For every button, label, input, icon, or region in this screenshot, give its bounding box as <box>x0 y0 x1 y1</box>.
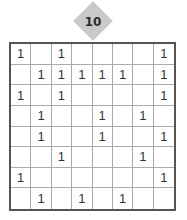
grid-cell-r3-c7[interactable] <box>133 85 153 106</box>
grid-cell-r6-c3[interactable]: 1 <box>52 147 72 168</box>
grid-cell-r5-c8[interactable]: 1 <box>154 127 174 148</box>
grid-cell-r7-c5[interactable] <box>93 168 113 189</box>
grid-cell-r4-c5[interactable]: 1 <box>93 106 113 127</box>
grid-cell-r5-c4[interactable] <box>72 127 92 148</box>
grid-cell-r4-c1[interactable] <box>11 106 31 127</box>
grid-cell-r4-c3[interactable] <box>52 106 72 127</box>
grid-cell-r1-c7[interactable] <box>133 44 153 65</box>
grid-cell-r7-c4[interactable] <box>72 168 92 189</box>
grid-cell-r5-c5[interactable]: 1 <box>93 127 113 148</box>
puzzle-grid: 1111111111111111111111111 <box>9 42 176 211</box>
grid-cell-r3-c1[interactable]: 1 <box>11 85 31 106</box>
grid-cell-r6-c7[interactable]: 1 <box>133 147 153 168</box>
grid-cell-r3-c5[interactable] <box>93 85 113 106</box>
grid-cell-r7-c2[interactable] <box>31 168 51 189</box>
grid-cell-r8-c5[interactable] <box>93 188 113 209</box>
grid-cell-r1-c8[interactable]: 1 <box>154 44 174 65</box>
grid-cell-r1-c3[interactable]: 1 <box>52 44 72 65</box>
grid-cell-r8-c7[interactable] <box>133 188 153 209</box>
grid-cell-r3-c6[interactable] <box>113 85 133 106</box>
grid-cell-r4-c2[interactable]: 1 <box>31 106 51 127</box>
grid-cell-r6-c6[interactable] <box>113 147 133 168</box>
grid-cell-r6-c1[interactable] <box>11 147 31 168</box>
grid-cell-r1-c1[interactable]: 1 <box>11 44 31 65</box>
grid-cell-r6-c4[interactable] <box>72 147 92 168</box>
grid-cell-r5-c6[interactable] <box>113 127 133 148</box>
grid-cell-r4-c7[interactable]: 1 <box>133 106 153 127</box>
grid-cell-r2-c8[interactable]: 1 <box>154 65 174 86</box>
grid-cell-r2-c3[interactable]: 1 <box>52 65 72 86</box>
grid-cell-r1-c5[interactable] <box>93 44 113 65</box>
grid-cell-r5-c2[interactable]: 1 <box>31 127 51 148</box>
grid-cell-r6-c2[interactable] <box>31 147 51 168</box>
grid-cell-r8-c8[interactable] <box>154 188 174 209</box>
grid-cell-r8-c6[interactable]: 1 <box>113 188 133 209</box>
grid-cell-r3-c2[interactable] <box>31 85 51 106</box>
grid-cell-r8-c2[interactable]: 1 <box>31 188 51 209</box>
grid-cell-r5-c1[interactable] <box>11 127 31 148</box>
grid-cell-r2-c2[interactable]: 1 <box>31 65 51 86</box>
grid-cell-r3-c4[interactable] <box>72 85 92 106</box>
puzzle-number: 10 <box>77 13 109 31</box>
grid-cell-r8-c3[interactable] <box>52 188 72 209</box>
grid-cell-r4-c4[interactable] <box>72 106 92 127</box>
grid-cell-r2-c6[interactable]: 1 <box>113 65 133 86</box>
grid-cell-r2-c5[interactable]: 1 <box>93 65 113 86</box>
grid-cell-r5-c3[interactable] <box>52 127 72 148</box>
grid-cell-r2-c4[interactable]: 1 <box>72 65 92 86</box>
grid-cell-r6-c5[interactable] <box>93 147 113 168</box>
grid-cell-r7-c1[interactable]: 1 <box>11 168 31 189</box>
grid-cell-r1-c4[interactable] <box>72 44 92 65</box>
grid-cell-r4-c8[interactable] <box>154 106 174 127</box>
grid-cell-r2-c1[interactable] <box>11 65 31 86</box>
grid-cell-r1-c2[interactable] <box>31 44 51 65</box>
grid-cell-r7-c3[interactable] <box>52 168 72 189</box>
grid-cell-r3-c3[interactable]: 1 <box>52 85 72 106</box>
grid-cell-r4-c6[interactable] <box>113 106 133 127</box>
grid-cell-r8-c4[interactable]: 1 <box>72 188 92 209</box>
grid-cell-r6-c8[interactable] <box>154 147 174 168</box>
grid-cell-r7-c6[interactable] <box>113 168 133 189</box>
grid-cell-r8-c1[interactable] <box>11 188 31 209</box>
grid-cell-r1-c6[interactable] <box>113 44 133 65</box>
grid-cell-r7-c7[interactable] <box>133 168 153 189</box>
grid-cell-r2-c7[interactable] <box>133 65 153 86</box>
grid-cell-r7-c8[interactable]: 1 <box>154 168 174 189</box>
grid-cell-r3-c8[interactable]: 1 <box>154 85 174 106</box>
grid-cell-r5-c7[interactable] <box>133 127 153 148</box>
